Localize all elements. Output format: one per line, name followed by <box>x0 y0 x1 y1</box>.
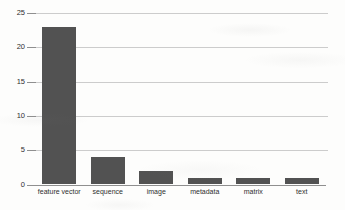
y-axis-tick-y20 <box>27 47 36 48</box>
y-axis-tick-label: 5 <box>3 146 25 154</box>
y-axis-tick-label: 20 <box>3 43 25 51</box>
y-axis-tick-y10 <box>27 116 36 117</box>
x-axis-label-text: text <box>270 188 334 196</box>
y-axis-tick-label: 25 <box>3 9 25 17</box>
bar-sequence <box>91 157 125 184</box>
bar-text <box>285 178 319 185</box>
y-axis-tick-y5 <box>27 150 36 151</box>
scanned-bar-chart-figure: 0510152025feature vectorsequenceimagemet… <box>0 0 345 210</box>
gridline-y20 <box>36 47 328 48</box>
y-axis-tick-label: 0 <box>3 181 25 189</box>
y-axis-tick-y15 <box>27 82 36 83</box>
x-axis-line <box>35 185 326 187</box>
gridline-y5 <box>36 150 328 151</box>
gridline-y15 <box>36 82 328 83</box>
bar-chart: 0510152025feature vectorsequenceimagemet… <box>0 0 345 210</box>
y-axis-tick-label: 10 <box>3 112 25 120</box>
bar-feature-vector <box>42 27 76 185</box>
y-axis-tick-y25 <box>27 13 36 14</box>
bar-image <box>139 171 173 185</box>
bar-metadata <box>188 178 222 185</box>
gridline-y25 <box>36 13 328 14</box>
y-axis-tick-label: 15 <box>3 78 25 86</box>
gridline-y10 <box>36 116 328 117</box>
bar-matrix <box>236 178 270 185</box>
